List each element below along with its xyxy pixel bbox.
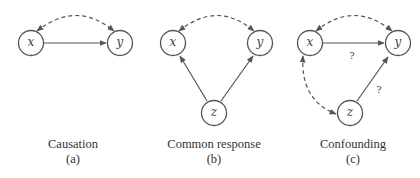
panel-a: x y [19,16,133,56]
edge-b-z-to-x [180,56,207,101]
node-b-z: z [202,101,227,126]
node-a-x: x [19,31,44,56]
node-c-y: y [386,31,411,56]
svg-text:y: y [256,35,264,49]
edge-c-xy-dashed [316,16,392,32]
svg-text:x: x [170,35,177,49]
caption-b: Common response (b) [144,137,284,167]
edge-c-z-to-y [357,57,388,101]
caption-c-title: Confounding [283,137,420,152]
svg-text:x: x [307,35,314,49]
edge-c-xz-dashed [303,56,336,114]
svg-text:z: z [210,105,218,119]
svg-text:y: y [394,35,402,49]
panel-c: ? ? x y z [298,16,411,126]
caption-b-title: Common response [144,137,284,152]
svg-text:y: y [116,35,124,49]
caption-c: Confounding (c) [283,137,420,167]
caption-a-title: Causation [3,137,143,152]
edge-b-xy-dashed [179,16,254,32]
caption-a: Causation (a) [3,137,143,167]
node-c-z: z [338,101,363,126]
node-c-x: x [298,31,323,56]
caption-c-label: (c) [283,152,420,167]
caption-b-label: (b) [144,152,284,167]
node-b-x: x [161,31,186,56]
node-b-y: y [248,31,273,56]
edge-a-xy-dashed [37,16,114,32]
svg-text:z: z [346,105,354,119]
edge-b-z-to-y [221,56,253,101]
panel-b: x y z [161,16,273,126]
caption-a-label: (a) [3,152,143,167]
edge-c-zy-question: ? [376,84,381,95]
edge-c-xy-question: ? [349,50,354,61]
svg-text:x: x [28,35,35,49]
node-a-y: y [108,31,133,56]
